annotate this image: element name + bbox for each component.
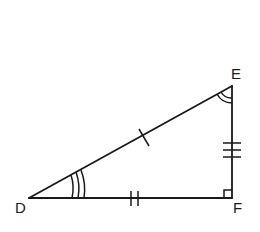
side-de <box>29 86 232 198</box>
triangle-diagram: D E F <box>0 0 260 232</box>
vertex-label-e: E <box>231 65 241 82</box>
right-angle-marker-f <box>224 190 232 198</box>
vertex-label-f: F <box>233 199 242 216</box>
vertex-label-d: D <box>15 199 26 216</box>
